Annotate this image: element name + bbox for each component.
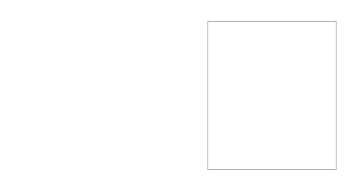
- right-panel: [196, 8, 348, 183]
- left-panel: [0, 0, 178, 191]
- figure-canvas: [0, 0, 356, 191]
